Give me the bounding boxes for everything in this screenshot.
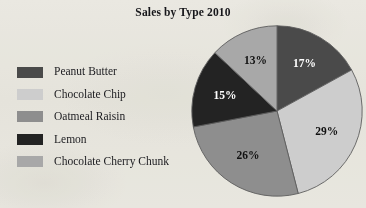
pie-chart-plot-area: 17%29%26%15%13% xyxy=(191,25,363,197)
legend-swatch xyxy=(17,134,43,145)
legend-item[interactable]: Peanut Butter xyxy=(17,61,213,83)
legend-swatch xyxy=(17,67,43,78)
legend-swatch xyxy=(17,89,43,100)
pie-svg: 17%29%26%15%13% xyxy=(191,25,363,197)
pie-slice-group xyxy=(192,26,362,196)
legend-item-label: Lemon xyxy=(54,134,87,146)
legend-item[interactable]: Chocolate Chip xyxy=(17,83,213,105)
legend-item-label: Chocolate Cherry Chunk xyxy=(54,156,169,168)
pie-slice-label: 17% xyxy=(293,57,316,69)
legend-swatch xyxy=(17,111,43,122)
legend-item[interactable]: Lemon xyxy=(17,128,213,150)
legend-item[interactable]: Chocolate Cherry Chunk xyxy=(17,151,213,173)
chart-legend: Peanut ButterChocolate ChipOatmeal Raisi… xyxy=(17,61,213,173)
pie-chart-figure: Sales by Type 2010 Peanut ButterChocolat… xyxy=(0,0,366,208)
legend-item-label: Oatmeal Raisin xyxy=(54,111,125,123)
legend-item-label: Peanut Butter xyxy=(54,66,117,78)
chart-title: Sales by Type 2010 xyxy=(0,6,366,18)
legend-item-label: Chocolate Chip xyxy=(54,89,126,101)
pie-slice-label: 26% xyxy=(237,149,260,161)
pie-slice-label: 13% xyxy=(244,54,267,66)
legend-item[interactable]: Oatmeal Raisin xyxy=(17,106,213,128)
pie-slice-label: 15% xyxy=(214,89,237,101)
legend-swatch xyxy=(17,156,43,167)
pie-slice-label: 29% xyxy=(315,125,338,137)
